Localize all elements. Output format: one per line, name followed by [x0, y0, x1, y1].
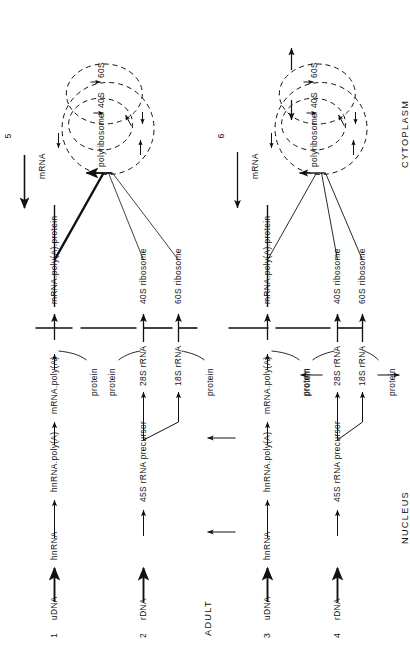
row-number-1: 1 — [50, 633, 59, 638]
panel-5-cycle-label-polyribosome: polyribosome — [97, 113, 105, 167]
panel-number-5: 5 — [4, 133, 13, 138]
row-2-pathway — [118, 314, 204, 602]
row-2-product-18s: 18S rRNA — [174, 346, 182, 387]
compartment-label-nucleus: NUCLEUS — [400, 491, 409, 544]
panel-5-inputs — [54, 173, 178, 307]
row-3-node-hnrna: hnRNA — [263, 531, 271, 560]
row-4-pathway — [300, 314, 399, 602]
row-number-4: 4 — [333, 633, 342, 638]
row-4-protein-input-28s: protein — [302, 368, 310, 396]
row-1-node-hnrna-polya: hnRNA.poly(A) — [50, 432, 58, 492]
panel-6-input-60s-ribosome: 60S ribosome — [358, 248, 366, 304]
row-3-node-udna: uDNA — [263, 596, 271, 620]
panel-5-cycle-label-60s: 60S — [97, 62, 105, 78]
row-4-node-45s-precursor: 45S rRNA precursor — [333, 421, 341, 502]
row-4-product-18s: 18S rRNA — [358, 346, 366, 387]
panel-number-6: 6 — [217, 133, 226, 138]
panel-6-input-40s-ribosome: 40S ribosome — [333, 248, 341, 304]
row-4-protein-input-18s: protein — [388, 368, 396, 396]
panel-6-input-mrna-polya-protein: mRNA.poly(A).protein — [263, 216, 271, 304]
panel-5-cycle-label-40s: 40S — [97, 92, 105, 108]
panel-5-cycle-label-mrna: mRNA — [38, 153, 46, 179]
panel-6-cycle-label-60s: 60S — [310, 62, 318, 78]
panel-5-input-mrna-polya-protein: mRNA.poly(A).protein — [50, 216, 58, 304]
row-1-node-mrna-polya: mRNA.poly(A) — [50, 356, 58, 414]
row-2-product-28s: 28S rRNA — [139, 346, 147, 387]
panel-6-cycle-label-40s: 40S — [310, 92, 318, 108]
panel-6-inputs — [267, 173, 362, 307]
row-3-node-hnrna-polya: hnRNA.poly(A) — [263, 432, 271, 492]
row-1-node-hnrna: hnRNA — [50, 531, 58, 560]
panel-5-input-60s-ribosome: 60S ribosome — [174, 248, 182, 304]
stage-label-adult: ADULT — [203, 600, 212, 636]
row-2-protein-input-28s: protein — [108, 368, 116, 396]
panel-5-cycle — [62, 64, 154, 174]
panel-6-cycle-label-mrna: mRNA — [251, 153, 259, 179]
row-number-3: 3 — [263, 633, 272, 638]
panel-6-cycle-label-polyribosome: polyribosome — [310, 113, 318, 167]
panel-6-cycle — [275, 64, 367, 174]
row-1-node-udna: uDNA — [50, 596, 58, 620]
row-1-protein-input: protein — [90, 368, 98, 396]
compartment-label-cytoplasm: CYTOPLASM — [400, 100, 409, 168]
row-4-product-28s: 28S rRNA — [333, 346, 341, 387]
panel-5-input-40s-ribosome: 40S ribosome — [139, 248, 147, 304]
row-3-pathway — [207, 314, 299, 602]
adult-regulation-arrows — [207, 438, 235, 532]
row-2-protein-input-18s: protein — [206, 368, 214, 396]
row-2-node-rdna: rDNA — [139, 598, 147, 620]
row-number-2: 2 — [139, 633, 148, 638]
row-2-node-45s-precursor: 45S rRNA precursor — [139, 421, 147, 502]
row-3-node-mrna-polya: mRNA.poly(A) — [263, 356, 271, 414]
row-4-node-rdna: rDNA — [333, 598, 341, 620]
